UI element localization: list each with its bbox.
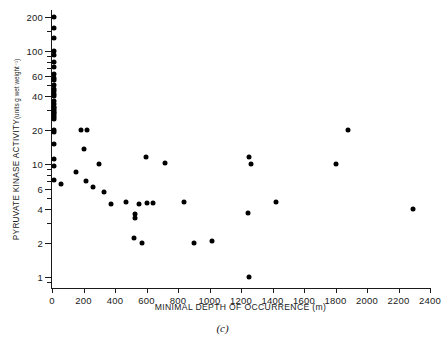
- data-point: [246, 210, 251, 215]
- y-axis-title-main: PYRUVATE KINASE ACTIVITY: [12, 119, 21, 240]
- data-point: [162, 160, 167, 165]
- data-point: [181, 200, 186, 205]
- y-axis-title-units: (units g wet weight⁻¹): [13, 59, 20, 119]
- x-axis-tick: [430, 288, 431, 293]
- y-axis-tick-label: 20: [32, 124, 43, 135]
- x-axis-tick: [241, 288, 242, 293]
- x-axis-title: MINIMAL DEPTH OF OCCURRENCE (m): [51, 302, 430, 312]
- data-point: [246, 275, 251, 280]
- x-axis-tick: [304, 288, 305, 293]
- y-axis-tick-label: 4: [38, 203, 43, 214]
- data-point: [51, 14, 56, 19]
- y-axis-minor-tick: [47, 31, 52, 32]
- data-point: [51, 142, 56, 147]
- x-axis-tick: [210, 288, 211, 293]
- data-point: [51, 178, 56, 183]
- data-point: [51, 65, 56, 70]
- y-axis-minor-tick: [47, 282, 52, 283]
- data-point: [124, 200, 129, 205]
- data-point: [101, 190, 106, 195]
- data-point: [246, 155, 251, 160]
- data-point: [90, 184, 95, 189]
- y-axis-tick: [45, 209, 52, 210]
- y-axis-minor-tick: [47, 169, 52, 170]
- data-point: [273, 200, 278, 205]
- y-axis-tick: [45, 277, 52, 278]
- data-point: [249, 161, 254, 166]
- x-axis-tick: [399, 288, 400, 293]
- data-point: [144, 201, 149, 206]
- data-point: [139, 241, 144, 246]
- panel-label: (c): [0, 322, 445, 334]
- data-point: [85, 127, 90, 132]
- data-point: [132, 216, 137, 221]
- data-point: [51, 157, 56, 162]
- y-axis-tick: [45, 243, 52, 244]
- data-point: [410, 206, 415, 211]
- x-axis-tick: [367, 288, 368, 293]
- data-point: [51, 164, 56, 169]
- data-point: [209, 238, 214, 243]
- y-axis-tick-label: 1: [38, 272, 43, 283]
- figure-panel-c: 1246102040601002000200400600800100012001…: [0, 0, 445, 343]
- data-point: [51, 25, 56, 30]
- y-axis-tick-label: 200: [27, 11, 43, 22]
- x-axis-tick: [336, 288, 337, 293]
- data-point: [150, 201, 155, 206]
- y-axis-tick-label: 60: [32, 70, 43, 81]
- data-point: [73, 169, 78, 174]
- data-point: [82, 147, 87, 152]
- x-axis-tick: [273, 288, 274, 293]
- y-axis-tick-label: 100: [27, 45, 43, 56]
- plot-area: 1246102040601002000200400600800100012001…: [51, 10, 430, 289]
- data-point: [191, 241, 196, 246]
- x-axis-tick: [84, 288, 85, 293]
- data-point: [137, 202, 142, 207]
- data-point: [51, 130, 56, 135]
- data-point: [83, 179, 88, 184]
- y-axis-tick-label: 2: [38, 238, 43, 249]
- y-axis-minor-tick: [47, 198, 52, 199]
- y-axis-tick-label: 6: [38, 184, 43, 195]
- data-point: [51, 52, 56, 57]
- data-point: [51, 36, 56, 41]
- y-axis-tick-label: 10: [32, 158, 43, 169]
- y-axis-tick-label: 40: [32, 90, 43, 101]
- x-axis-tick: [178, 288, 179, 293]
- data-point: [143, 155, 148, 160]
- data-point: [51, 116, 56, 121]
- data-point: [131, 236, 136, 241]
- x-axis-tick: [115, 288, 116, 293]
- x-axis-tick: [147, 288, 148, 293]
- x-axis-tick: [52, 288, 53, 293]
- data-point: [333, 161, 338, 166]
- y-axis-minor-tick: [47, 175, 52, 176]
- data-point: [58, 181, 63, 186]
- y-axis-tick: [45, 189, 52, 190]
- y-axis-title: PYRUVATE KINASE ACTIVITY(units g wet wei…: [12, 10, 26, 289]
- data-point: [346, 127, 351, 132]
- data-point: [109, 202, 114, 207]
- y-axis-minor-tick: [47, 223, 52, 224]
- data-point: [79, 127, 84, 132]
- data-point: [97, 161, 102, 166]
